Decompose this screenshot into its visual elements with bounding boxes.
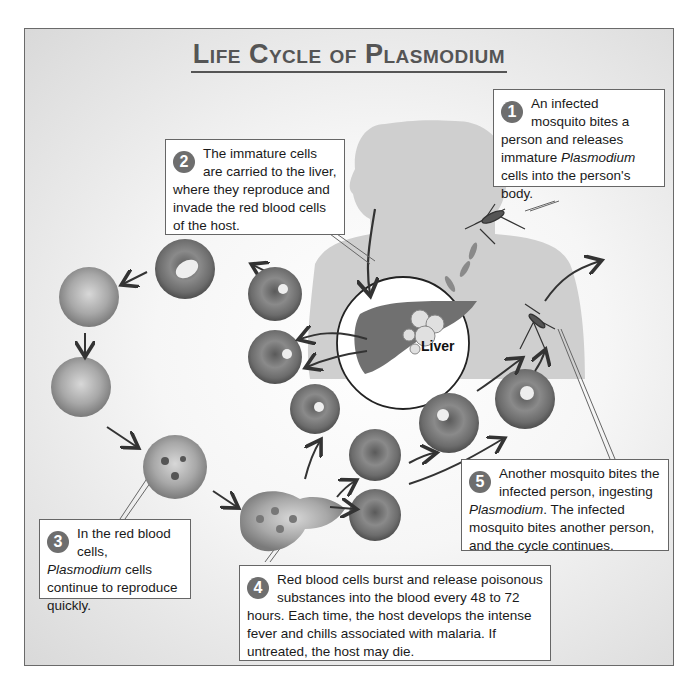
step-3-callout: 3In the red blood cells, Plasmodium cell… bbox=[39, 519, 191, 599]
step-number-badge: 2 bbox=[173, 151, 195, 173]
step-5-callout: 5Another mosquito bites the infected per… bbox=[461, 459, 669, 551]
step-4-callout: 4Red blood cells burst and release poiso… bbox=[239, 565, 551, 661]
liver-label: Liver bbox=[421, 338, 455, 354]
step-1-callout: 1An infected mosquito bites a person and… bbox=[493, 89, 665, 187]
step-number-badge: 3 bbox=[47, 531, 69, 553]
page-title: Life Cycle of Plasmodium bbox=[25, 39, 673, 73]
diagram-frame: Liver Life Cycle of Plasmodium 1An infec… bbox=[24, 28, 674, 666]
step-2-callout: 2The immature cells are carried to the l… bbox=[165, 139, 345, 235]
step-number-badge: 5 bbox=[469, 471, 491, 493]
infected-cells-loop bbox=[51, 239, 275, 507]
step-number-badge: 4 bbox=[247, 577, 269, 599]
step-number-badge: 1 bbox=[501, 101, 523, 123]
bursting-cell bbox=[240, 491, 345, 551]
